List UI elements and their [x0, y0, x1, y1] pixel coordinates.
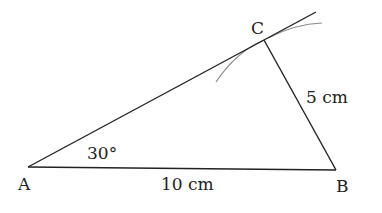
side-label-bc: 5 cm	[306, 89, 348, 106]
construction-arc-upper	[268, 23, 322, 38]
vertex-label-c: C	[251, 20, 264, 37]
angle-label-a: 30°	[87, 145, 117, 162]
ray-ac	[28, 12, 316, 167]
side-label-ab: 10 cm	[161, 176, 214, 193]
vertex-label-a: A	[18, 176, 30, 193]
side-ab	[28, 167, 336, 170]
triangle-diagram: C A B 30° 10 cm 5 cm	[0, 0, 382, 213]
construction-arc-lower	[216, 40, 264, 82]
vertex-label-b: B	[336, 178, 349, 195]
